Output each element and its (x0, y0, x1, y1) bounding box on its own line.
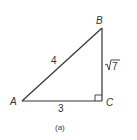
triangle (22, 28, 102, 101)
vertex-label-a: A (9, 96, 17, 107)
side-label-ab: 4 (51, 55, 57, 66)
side-label-bc: 7 (105, 60, 120, 72)
vertex-label-c: C (106, 97, 114, 108)
right-triangle-diagram: B A C 4 3 7 (a) (0, 0, 137, 140)
sqrt-radicand: 7 (112, 61, 118, 72)
figure-caption: (a) (55, 123, 65, 132)
right-angle-marker (95, 95, 102, 101)
side-label-ac: 3 (58, 103, 64, 114)
side-ab (22, 28, 102, 101)
vertex-label-b: B (96, 15, 103, 26)
